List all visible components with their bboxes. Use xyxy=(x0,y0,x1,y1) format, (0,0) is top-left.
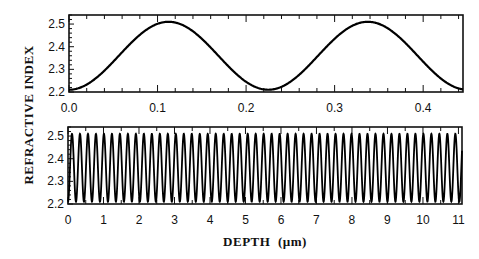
x-tick-label: 0.3 xyxy=(326,101,343,115)
x-tick-label: 0.1 xyxy=(149,101,166,115)
y-tick-label: 2.3 xyxy=(48,62,65,76)
y-tick-label: 2.4 xyxy=(47,152,64,166)
x-tick-label: 9 xyxy=(384,213,391,227)
y-tick-label: 2.2 xyxy=(48,85,65,99)
y-axis-title: REFRACTIVE INDEX xyxy=(21,45,36,184)
x-tick-label: 3 xyxy=(171,213,178,227)
plot-frame xyxy=(69,15,463,92)
data-line xyxy=(68,134,462,202)
x-tick-label: 0 xyxy=(65,213,72,227)
top-panel: 2.22.32.42.50.00.10.20.30.4 xyxy=(48,15,463,115)
x-tick-label: 10 xyxy=(416,213,430,227)
y-tick-label: 2.5 xyxy=(48,17,65,31)
x-axis-title: DEPTH (µm) xyxy=(223,234,307,249)
x-tick-label: 0.4 xyxy=(415,101,432,115)
x-tick-label: 7 xyxy=(313,213,320,227)
x-tick-label: 0.2 xyxy=(238,101,255,115)
chart-figure: 2.22.32.42.50.00.10.20.30.4 2.22.32.42.5… xyxy=(0,0,479,259)
x-tick-label: 2 xyxy=(136,213,143,227)
x-tick-label: 4 xyxy=(207,213,214,227)
refractive-index-chart: 2.22.32.42.50.00.10.20.30.4 2.22.32.42.5… xyxy=(0,0,479,259)
x-tick-label: 8 xyxy=(349,213,356,227)
y-tick-label: 2.3 xyxy=(47,174,64,188)
data-line xyxy=(69,22,463,90)
y-tick-label: 2.5 xyxy=(47,129,64,143)
x-tick-label: 0.0 xyxy=(61,101,78,115)
x-tick-label: 1 xyxy=(100,213,107,227)
x-tick-label: 5 xyxy=(242,213,249,227)
y-tick-label: 2.4 xyxy=(48,40,65,54)
x-tick-label: 6 xyxy=(278,213,285,227)
y-tick-label: 2.2 xyxy=(47,197,64,211)
bottom-panel: 2.22.32.42.501234567891011 xyxy=(47,127,465,227)
x-tick-label: 11 xyxy=(452,213,465,227)
